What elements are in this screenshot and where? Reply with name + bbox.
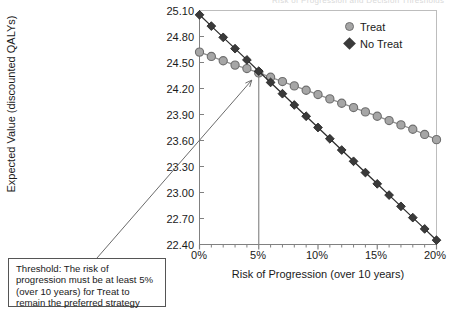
y-axis-title: Expected Value (discounted QALYs) — [5, 0, 17, 254]
y-tick-label-6: 23.30 — [150, 162, 194, 172]
x-tick-label-3: 15% — [356, 250, 396, 261]
legend-item-treat: Treat — [345, 19, 385, 34]
diamond-marker-icon — [343, 37, 356, 50]
y-tick-label-1: 24.80 — [150, 32, 194, 42]
circle-marker-icon — [345, 22, 354, 31]
y-tick-label-3: 24.20 — [150, 84, 194, 94]
chart-figure: Risk of Progression and Decision Thresho… — [0, 0, 450, 315]
x-tick-label-4: 20% — [415, 250, 450, 261]
x-tick-label-2: 10% — [297, 250, 337, 261]
y-tick-label-5: 23.60 — [150, 136, 194, 146]
threshold-annotation-text: Threshold: The risk of progression must … — [16, 263, 153, 308]
chart-title-remnant: Risk of Progression and Decision Thresho… — [272, 0, 448, 5]
x-tick-label-0: 0% — [179, 250, 219, 261]
y-tick-label-0: 25.10 — [150, 6, 194, 16]
threshold-annotation-box: Threshold: The risk of progression must … — [8, 258, 166, 307]
x-tick-label-1: 5% — [238, 250, 278, 261]
y-tick-label-9: 22.40 — [150, 240, 194, 250]
legend-label-no-treat: No Treat — [360, 38, 402, 50]
x-axis-title: Risk of Progression (over 10 years) — [199, 268, 437, 280]
y-tick-label-4: 23.90 — [150, 110, 194, 120]
y-tick-label-8: 22.70 — [150, 214, 194, 224]
chart-legend: Treat No Treat — [337, 17, 433, 57]
y-tick-label-2: 24.50 — [150, 58, 194, 68]
y-tick-label-7: 23.00 — [150, 188, 194, 198]
legend-label-treat: Treat — [360, 21, 385, 33]
legend-item-no-treat: No Treat — [345, 36, 402, 51]
